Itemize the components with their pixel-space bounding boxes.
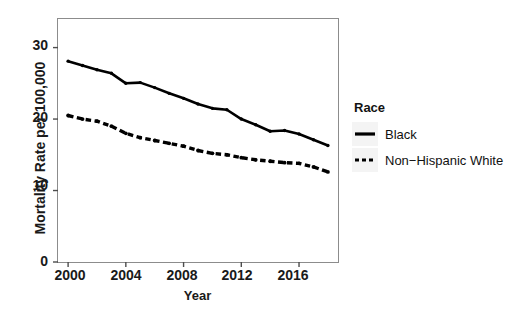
data-point	[239, 156, 243, 160]
data-point	[182, 144, 186, 148]
data-point	[167, 92, 170, 95]
data-point	[95, 68, 98, 71]
data-point	[283, 161, 287, 165]
data-point	[326, 170, 330, 174]
data-point	[196, 149, 200, 153]
legend-title: Race	[354, 100, 527, 115]
data-point	[153, 139, 157, 143]
data-point	[95, 119, 99, 123]
data-point	[81, 117, 85, 121]
data-point	[240, 117, 243, 120]
panel-border	[58, 19, 339, 263]
data-point	[225, 108, 228, 111]
data-point	[167, 141, 171, 145]
data-point	[124, 82, 127, 85]
legend-key-dashed-line-icon	[352, 148, 378, 172]
data-point	[268, 130, 271, 133]
data-point	[312, 138, 315, 141]
data-point	[182, 97, 185, 100]
data-point	[283, 129, 286, 132]
chart-figure: Mortality Rate per 100,000 30 20 10 0 20…	[0, 0, 530, 315]
data-point	[124, 131, 128, 135]
data-point	[153, 86, 156, 89]
data-point	[211, 107, 214, 110]
data-point	[268, 159, 272, 163]
data-point	[139, 81, 142, 84]
legend-item-black[interactable]: Black	[352, 121, 527, 147]
data-point	[66, 59, 69, 62]
data-point	[66, 114, 70, 118]
legend-item-non-hispanic-white[interactable]: Non−Hispanic White	[352, 147, 527, 173]
data-point	[254, 158, 258, 162]
data-point	[81, 64, 84, 67]
data-point	[312, 165, 316, 169]
data-point	[211, 151, 215, 155]
data-point	[254, 123, 257, 126]
data-point	[138, 136, 142, 140]
data-point	[110, 124, 114, 128]
data-point	[297, 132, 300, 135]
legend: Race Black Non−Hispanic White	[352, 100, 527, 173]
data-point	[297, 161, 301, 165]
legend-key-solid-line-icon	[352, 122, 378, 146]
data-point	[196, 102, 199, 105]
data-point	[110, 72, 113, 75]
legend-label-non-hispanic-white: Non−Hispanic White	[385, 153, 503, 168]
legend-label-black: Black	[385, 127, 417, 142]
data-point	[326, 144, 329, 147]
data-point	[225, 153, 229, 157]
